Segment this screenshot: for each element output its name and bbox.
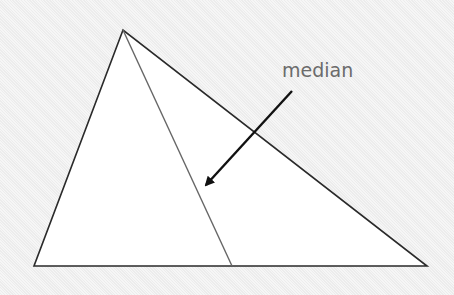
median-label: median bbox=[282, 59, 353, 81]
triangle-median-diagram: median bbox=[0, 0, 454, 295]
triangle bbox=[34, 30, 427, 266]
